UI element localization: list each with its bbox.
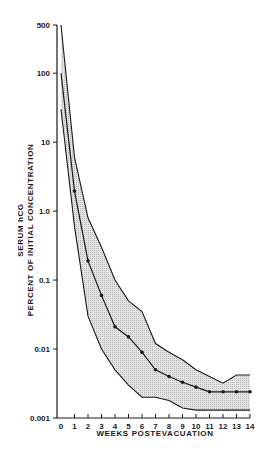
y-tick-label: 500 <box>37 21 51 30</box>
svg-text:SERUM hCG: SERUM hCG <box>16 203 25 256</box>
data-point <box>235 390 239 394</box>
data-point <box>181 380 185 384</box>
y-tick-label: 0.1 <box>39 276 51 285</box>
data-point <box>86 259 90 263</box>
upper-bound-line <box>61 25 250 383</box>
data-point <box>221 390 225 394</box>
svg-text:PERCENT OF INITIAL CONCENTRATI: PERCENT OF INITIAL CONCENTRATION <box>26 144 35 317</box>
data-point <box>73 189 77 193</box>
data-point <box>194 385 198 389</box>
data-point <box>100 294 104 298</box>
data-point <box>248 390 252 394</box>
x-axis-label: WEEKS POSTEVACUATION <box>96 429 213 438</box>
data-point <box>140 350 144 354</box>
confidence-band <box>61 25 250 410</box>
y-tick-label: 0.001 <box>30 414 51 423</box>
y-tick-label: 100 <box>37 69 51 78</box>
data-point <box>127 335 131 339</box>
data-point <box>167 375 171 379</box>
y-axis-label: SERUM hCG PERCENT OF INITIAL CONCENTRATI… <box>16 144 35 317</box>
x-tick-label: 0 <box>59 422 64 431</box>
x-tick-label: 2 <box>86 422 91 431</box>
x-tick-label: 13 <box>232 422 241 431</box>
x-tick-label: 1 <box>72 422 77 431</box>
y-tick-label: 10 <box>41 138 50 147</box>
hcg-regression-chart: 500100101.00.10.010.001 0123456789101112… <box>0 0 269 458</box>
x-tick-label: 14 <box>246 422 255 431</box>
y-tick-label: 1.0 <box>39 207 51 216</box>
data-point <box>154 368 158 372</box>
data-point <box>208 390 212 394</box>
data-point <box>113 325 117 329</box>
y-tick-label: 0.01 <box>34 345 50 354</box>
x-tick-label: 12 <box>219 422 228 431</box>
